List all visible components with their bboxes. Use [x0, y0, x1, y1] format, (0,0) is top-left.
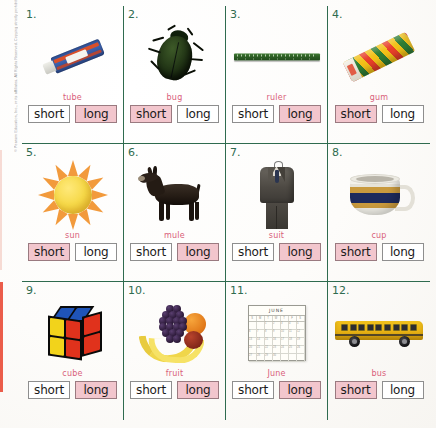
bus-window	[384, 324, 391, 331]
worksheet-item-1: 1. tube short long	[22, 6, 124, 144]
beetle-bug-image	[127, 22, 222, 92]
choice-short[interactable]: short	[335, 105, 377, 123]
item-number: 12.	[332, 284, 350, 297]
calendar-day-cell: 16	[273, 338, 281, 346]
worksheet-item-9: 9. cube short long	[22, 282, 124, 420]
answer-choices: short long	[130, 381, 219, 399]
suit-image	[229, 160, 324, 230]
calendar-weekday: W	[273, 316, 281, 321]
answer-choices: short long	[130, 243, 219, 261]
item-word: bug	[167, 93, 183, 102]
calendar-day-cell: 23	[273, 346, 281, 354]
choice-long[interactable]: long	[382, 381, 424, 399]
calendar-weekday: M	[257, 316, 265, 321]
item-word: June	[267, 369, 285, 378]
item-word: cube	[62, 369, 82, 378]
item-word: gum	[370, 93, 389, 102]
worksheet-item-4: 4. gum short long	[328, 6, 430, 144]
worksheet-item-6: 6. mule short long	[124, 144, 226, 282]
school-bus-image	[331, 298, 427, 368]
choice-long[interactable]: long	[279, 381, 321, 399]
calendar-weekday: S	[249, 316, 257, 321]
calendar-day-cell: 30	[273, 354, 281, 362]
calendar-day-cell: 4	[289, 322, 297, 330]
worksheet-item-10: 10. fruit short long	[124, 282, 226, 420]
choice-long[interactable]: long	[382, 243, 424, 261]
calendar-day-grid: 1234567891011121314151617181920212223242…	[249, 322, 305, 362]
item-word: suit	[269, 231, 284, 240]
item-number: 4.	[332, 8, 343, 21]
choice-long[interactable]: long	[177, 243, 219, 261]
mule-image	[127, 160, 222, 230]
bus-window	[401, 324, 408, 331]
page-edge-stripe	[0, 282, 3, 392]
worksheet-grid: 1. tube short long 2. bug short	[22, 6, 430, 420]
choice-short[interactable]: short	[28, 105, 70, 123]
ruler-image	[229, 22, 324, 92]
worksheet-item-5: 5. sun short long	[22, 144, 124, 282]
item-number: 7.	[230, 146, 241, 159]
item-number: 2.	[128, 8, 139, 21]
choice-short[interactable]: short	[232, 105, 274, 123]
worksheet-item-8: 8. cup short long	[328, 144, 430, 282]
choice-long[interactable]: long	[75, 381, 117, 399]
calendar-day-cell: 29	[265, 354, 273, 362]
calendar-day-cell: 28	[257, 354, 265, 362]
item-number: 6.	[128, 146, 139, 159]
choice-short[interactable]: short	[335, 381, 377, 399]
choice-long[interactable]: long	[75, 243, 117, 261]
calendar-day-cell: 12	[297, 330, 305, 338]
choice-long[interactable]: long	[75, 105, 117, 123]
sun-ray	[38, 190, 54, 200]
item-number: 10.	[128, 284, 146, 297]
worksheet-item-7: 7. suit short long	[226, 144, 328, 282]
choice-short[interactable]: short	[28, 243, 70, 261]
answer-choices: short long	[335, 105, 424, 123]
item-word: fruit	[166, 369, 184, 378]
choice-long[interactable]: long	[279, 243, 321, 261]
calendar-day-cell	[281, 354, 289, 362]
calendar-day-cell: 17	[281, 338, 289, 346]
item-number: 8.	[332, 146, 343, 159]
calendar-day-cell: 18	[289, 338, 297, 346]
calendar-day-cell: 1	[265, 322, 273, 330]
answer-choices: short long	[232, 381, 321, 399]
calendar-day-cell: 10	[281, 330, 289, 338]
sun-ray	[92, 190, 108, 200]
choice-short[interactable]: short	[232, 243, 274, 261]
answer-choices: short long	[28, 243, 117, 261]
choice-short[interactable]: short	[335, 243, 377, 261]
choice-short[interactable]: short	[28, 381, 70, 399]
calendar-weekday: S	[297, 316, 305, 321]
calendar-day-cell: 20	[249, 346, 257, 354]
calendar-day-cell: 8	[265, 330, 273, 338]
calendar-month-title: JUNE	[249, 306, 305, 316]
calendar-day-cell: 22	[265, 346, 273, 354]
answer-choices: short long	[28, 381, 117, 399]
calendar-day-cell	[297, 354, 305, 362]
choice-short[interactable]: short	[130, 105, 172, 123]
answer-choices: short long	[130, 105, 219, 123]
bus-window	[367, 324, 374, 331]
choice-long[interactable]: long	[279, 105, 321, 123]
choice-short[interactable]: short	[232, 381, 274, 399]
gum-stick-image	[331, 22, 427, 92]
choice-short[interactable]: short	[130, 381, 172, 399]
choice-short[interactable]: short	[130, 243, 172, 261]
calendar-day-cell	[249, 322, 257, 330]
toothpaste-tube-image	[25, 22, 120, 92]
bus-window	[358, 324, 365, 331]
calendar-day-cell: 5	[297, 322, 305, 330]
calendar-day-cell: 11	[289, 330, 297, 338]
item-word: ruler	[267, 93, 287, 102]
item-number: 11.	[230, 284, 248, 297]
choice-long[interactable]: long	[177, 105, 219, 123]
item-word: sun	[65, 231, 80, 240]
choice-long[interactable]: long	[177, 381, 219, 399]
item-number: 1.	[26, 8, 37, 21]
item-word: cup	[371, 231, 386, 240]
calendar-day-cell: 25	[289, 346, 297, 354]
calendar-day-cell: 14	[257, 338, 265, 346]
item-word: tube	[63, 93, 82, 102]
choice-long[interactable]: long	[382, 105, 424, 123]
